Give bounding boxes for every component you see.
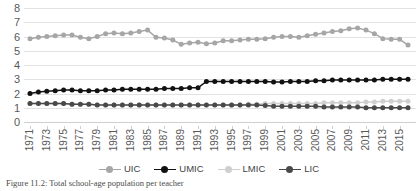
legend-item-lmic[interactable]: LMIC	[218, 164, 266, 174]
data-point	[372, 100, 377, 105]
data-point	[78, 88, 83, 93]
data-point	[355, 100, 360, 105]
data-point	[280, 34, 285, 39]
data-point	[330, 29, 335, 34]
data-point	[305, 79, 310, 84]
data-point	[103, 87, 108, 92]
data-point	[397, 37, 402, 42]
data-point	[204, 41, 209, 46]
data-point	[313, 104, 318, 109]
data-point	[53, 88, 58, 93]
x-axis-tick-label: 2001	[277, 129, 287, 151]
data-point	[44, 89, 49, 94]
data-point	[78, 102, 83, 107]
data-point	[229, 102, 234, 107]
data-point	[204, 79, 209, 84]
data-point	[330, 100, 335, 105]
data-point	[179, 86, 184, 91]
data-point	[61, 87, 66, 92]
data-point	[263, 103, 268, 108]
x-axis-tick-label: 1987	[159, 129, 169, 151]
legend-swatch-icon	[99, 165, 121, 174]
data-point	[137, 102, 142, 107]
data-point	[196, 85, 201, 90]
data-point	[406, 43, 411, 48]
data-point	[170, 86, 175, 91]
x-axis-tick-label: 2005	[311, 129, 321, 151]
data-point	[380, 99, 385, 104]
data-point	[313, 78, 318, 83]
x-axis-tick-label: 1977	[75, 129, 85, 151]
data-point	[103, 102, 108, 107]
data-point	[296, 79, 301, 84]
data-point	[70, 102, 75, 107]
data-point	[355, 25, 360, 30]
data-point	[372, 77, 377, 82]
legend-item-umic[interactable]: UMIC	[154, 164, 203, 174]
data-point	[296, 35, 301, 40]
data-point	[263, 79, 268, 84]
data-point	[86, 102, 91, 107]
data-point	[53, 33, 58, 38]
data-point	[221, 102, 226, 107]
data-point	[95, 34, 100, 39]
legend-item-uic[interactable]: UIC	[99, 164, 140, 174]
data-point	[389, 37, 394, 42]
figure-caption: Figure 11.2: Total school-age population…	[6, 178, 416, 189]
data-point	[137, 87, 142, 92]
y-axis-tick-label: 2	[14, 88, 20, 99]
data-point	[355, 105, 360, 110]
data-point	[347, 105, 352, 110]
data-point	[364, 105, 369, 110]
x-axis-tick-label: 2013	[378, 129, 388, 151]
data-point	[406, 105, 411, 110]
x-axis-tick-label: 1991	[193, 129, 203, 151]
data-point	[330, 77, 335, 82]
x-axis-tick-label: 2003	[294, 129, 304, 151]
data-point	[53, 101, 58, 106]
data-point	[380, 77, 385, 82]
data-point	[145, 102, 150, 107]
data-point	[70, 33, 75, 38]
data-point	[95, 88, 100, 93]
data-point	[338, 100, 343, 105]
data-point	[128, 30, 133, 35]
data-point	[397, 77, 402, 82]
data-point	[86, 88, 91, 93]
x-axis-tick-label: 1973	[42, 129, 52, 151]
series-line	[30, 28, 408, 45]
data-point	[296, 104, 301, 109]
data-point	[179, 42, 184, 47]
data-point	[263, 36, 268, 41]
legend-label: UIC	[124, 164, 140, 174]
data-point	[389, 99, 394, 104]
series-uic	[28, 25, 411, 47]
data-point	[364, 100, 369, 105]
data-point	[145, 28, 150, 33]
data-point	[120, 87, 125, 92]
data-point	[61, 101, 66, 106]
data-point	[229, 79, 234, 84]
data-point	[280, 80, 285, 85]
data-point	[364, 28, 369, 33]
data-point	[78, 35, 83, 40]
figure-container: 012345678 197119731975197719791981198319…	[0, 0, 418, 191]
data-point	[305, 33, 310, 38]
x-axis-tick-label: 1971	[25, 129, 35, 151]
legend-label: LIC	[304, 164, 319, 174]
data-point	[238, 38, 243, 43]
data-point	[128, 102, 133, 107]
data-point	[154, 35, 159, 40]
data-point	[397, 105, 402, 110]
data-point	[406, 99, 411, 104]
data-point	[86, 36, 91, 41]
data-point	[137, 29, 142, 34]
legend-swatch-icon	[279, 165, 301, 174]
data-point	[44, 34, 49, 39]
data-point	[170, 102, 175, 107]
data-point	[322, 100, 327, 105]
data-point	[196, 40, 201, 45]
x-axis: 1971197319751977197919811983198519871989…	[24, 126, 416, 164]
legend-item-lic[interactable]: LIC	[279, 164, 319, 174]
data-point	[28, 91, 33, 96]
